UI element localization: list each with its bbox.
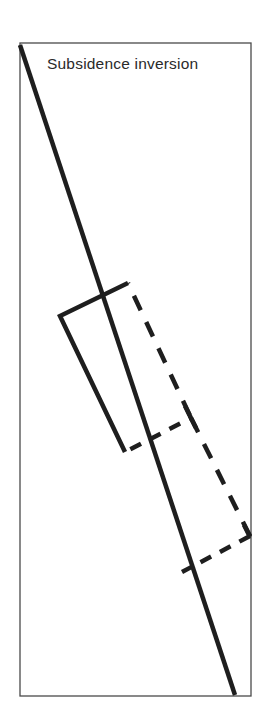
diagram-canvas bbox=[0, 0, 276, 728]
mid-tick bbox=[185, 406, 196, 428]
original-layer-outline bbox=[60, 283, 128, 452]
subsided-layer-mid-dashed bbox=[125, 418, 191, 452]
corner-tick bbox=[244, 525, 250, 537]
environmental-lapse-line bbox=[20, 45, 235, 695]
diagram-title: Subsidence inversion bbox=[47, 55, 198, 73]
subsided-layer-lower-dashed bbox=[191, 418, 250, 536]
frame-border bbox=[20, 43, 251, 696]
